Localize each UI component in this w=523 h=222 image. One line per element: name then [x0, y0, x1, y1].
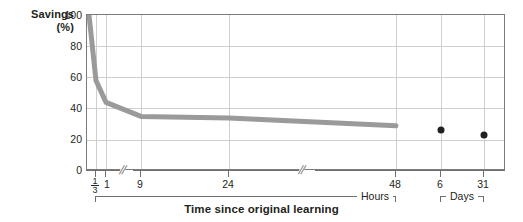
x-tick-9: [140, 170, 141, 177]
data-point-6-days: [438, 127, 445, 134]
savings-curve-svg: [87, 15, 506, 171]
x-tick-6d: [440, 170, 441, 177]
x-axis-title: Time since original learning: [0, 203, 523, 215]
x-axis-segment-2: [133, 170, 300, 171]
x-axis-segment-3: [315, 170, 505, 171]
data-point-31-days: [481, 132, 488, 139]
x-tick-label-6d: 6: [420, 178, 460, 190]
y-tick-label-20: 20: [56, 133, 82, 145]
x-tick-label-9: 9: [120, 178, 160, 190]
savings-curve-path: [89, 15, 396, 126]
group-bracket-hours: [95, 196, 396, 202]
y-tick-label-60: 60: [56, 71, 82, 83]
chart-root: Savings (%) 100 80 60 40 20 0: [0, 0, 523, 222]
x-tick-label-48: 48: [375, 178, 415, 190]
plot-area: [86, 14, 505, 170]
x-tick-31d: [483, 170, 484, 177]
group-label-days: Days: [446, 190, 478, 202]
y-axis-unit-text: (%): [4, 21, 74, 34]
y-tick-label-40: 40: [56, 102, 82, 114]
y-tick-label-100: 100: [56, 9, 82, 21]
x-axis-segment-1: [86, 170, 122, 171]
x-tick-label-31d: 31: [463, 178, 503, 190]
group-label-hours: Hours: [357, 190, 393, 202]
x-tick-48: [395, 170, 396, 177]
x-tick-1: [105, 170, 106, 177]
x-tick-label-24: 24: [208, 178, 248, 190]
x-tick-24: [228, 170, 229, 177]
y-tick-label-80: 80: [56, 40, 82, 52]
savings-curve: [87, 15, 506, 171]
